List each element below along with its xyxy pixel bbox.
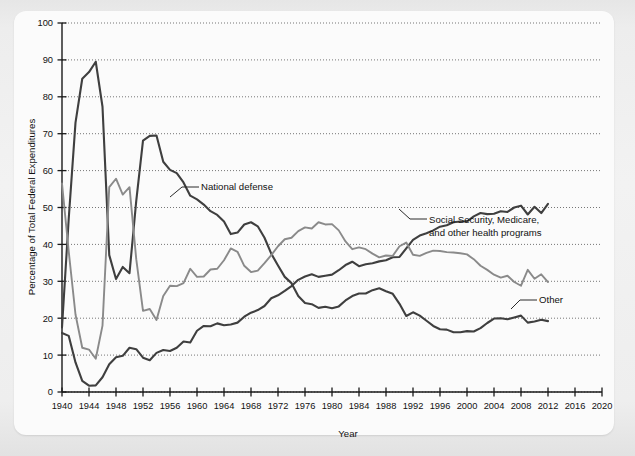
x-tick-label: 1988 bbox=[376, 401, 397, 411]
x-tick-label: 2016 bbox=[565, 401, 586, 411]
y-tick-label: 70 bbox=[43, 129, 53, 139]
x-tick-label: 1972 bbox=[268, 401, 289, 411]
x-tick-label: 1992 bbox=[403, 401, 424, 411]
y-axis-title: Percentage of Total Federal Expenditures bbox=[26, 119, 37, 296]
y-tick-label: 30 bbox=[43, 277, 53, 287]
x-tick-label: 1956 bbox=[160, 401, 181, 411]
annotation-national-defense: National defense bbox=[201, 181, 273, 192]
x-tick-label: 1944 bbox=[79, 401, 100, 411]
x-tick-label: 2004 bbox=[484, 401, 505, 411]
x-tick-label: 1968 bbox=[241, 401, 262, 411]
federal-expenditures-line-chart: 0102030405060708090100 19401944194819521… bbox=[0, 0, 635, 456]
leader-stub-national-defense bbox=[170, 187, 182, 197]
annotation-other: Other bbox=[539, 294, 564, 305]
x-axis-title: Year bbox=[338, 428, 358, 439]
y-tick-labels: 0102030405060708090100 bbox=[37, 18, 53, 397]
x-tick-group bbox=[62, 388, 602, 397]
gridlines-group bbox=[62, 23, 602, 392]
x-tick-label: 2012 bbox=[538, 401, 559, 411]
leader-stub-social-security bbox=[399, 209, 410, 219]
y-tick-label: 50 bbox=[43, 203, 53, 213]
y-tick-label: 40 bbox=[43, 240, 53, 250]
x-tick-label: 2020 bbox=[592, 401, 613, 411]
x-tick-label: 1952 bbox=[133, 401, 154, 411]
y-tick-label: 60 bbox=[43, 166, 53, 176]
y-tick-label: 10 bbox=[43, 351, 53, 361]
x-tick-label: 1996 bbox=[430, 401, 451, 411]
x-tick-label: 1964 bbox=[214, 401, 235, 411]
y-tick-label: 100 bbox=[37, 18, 53, 28]
annotation-social-security-line2: and other health programs bbox=[429, 227, 542, 238]
leader-stub-other bbox=[511, 300, 520, 309]
x-tick-labels: 1940194419481952195619601964196819721976… bbox=[52, 401, 613, 411]
x-tick-label: 1984 bbox=[349, 401, 370, 411]
x-tick-label: 2008 bbox=[511, 401, 532, 411]
y-tick-label: 80 bbox=[43, 92, 53, 102]
x-tick-label: 1940 bbox=[52, 401, 73, 411]
x-tick-label: 1976 bbox=[295, 401, 316, 411]
y-tick-label: 0 bbox=[48, 387, 53, 397]
y-tick-label: 90 bbox=[43, 55, 53, 65]
y-tick-label: 20 bbox=[43, 314, 53, 324]
screenshot-root: 0102030405060708090100 19401944194819521… bbox=[0, 0, 635, 456]
x-tick-label: 1948 bbox=[106, 401, 127, 411]
x-tick-label: 1960 bbox=[187, 401, 208, 411]
x-tick-label: 1980 bbox=[322, 401, 343, 411]
series-line bbox=[62, 62, 548, 332]
x-tick-label: 2000 bbox=[457, 401, 478, 411]
annotation-social-security-line1: Social Security, Medicare, bbox=[429, 214, 539, 225]
